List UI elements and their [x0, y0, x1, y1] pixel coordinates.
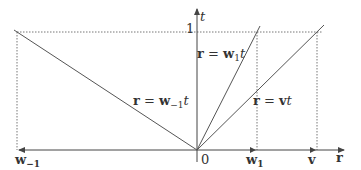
- w1-base: w: [246, 152, 257, 167]
- eq: =: [260, 93, 279, 108]
- w1-tick-label: w1: [246, 153, 263, 169]
- origin-label: 0: [201, 153, 209, 166]
- line-v-label: r = vt: [253, 94, 292, 107]
- var: t: [240, 46, 245, 61]
- r-axis-label: r: [336, 151, 343, 164]
- sub: −1: [170, 100, 183, 110]
- line-w-minus-1: [14, 30, 197, 150]
- w-minus-1-base: w: [15, 152, 26, 167]
- base: v: [279, 93, 287, 108]
- v-tick-label: v: [308, 153, 316, 166]
- w-minus-1-tick-label: w−1: [15, 153, 40, 169]
- eq: =: [140, 93, 159, 108]
- line-w1-label: r = w1t: [197, 47, 245, 63]
- var: t: [287, 93, 292, 108]
- diagram-canvas: [0, 0, 361, 170]
- line-w1: [197, 26, 260, 150]
- base: w: [159, 93, 170, 108]
- var: t: [184, 93, 189, 108]
- lhs: r: [197, 46, 204, 61]
- spacetime-diagram: t 1 0 r w−1 w1 v r = w1t r = w−1t r = vt: [0, 0, 361, 170]
- lhs: r: [133, 93, 140, 108]
- eq: =: [204, 46, 223, 61]
- w1-sub: 1: [257, 159, 263, 169]
- t-tick-1-label: 1: [186, 22, 194, 35]
- w-minus-1-sub: −1: [26, 159, 40, 169]
- t-axis-label: t: [200, 10, 205, 23]
- line-w-minus-1-label: r = w−1t: [133, 94, 189, 110]
- lhs: r: [253, 93, 260, 108]
- base: w: [223, 46, 234, 61]
- line-v: [197, 25, 324, 150]
